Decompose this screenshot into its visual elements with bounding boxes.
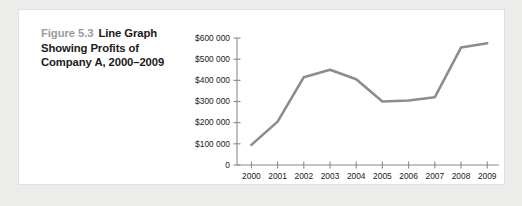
chart-svg: 0$100 000$200 000$300 000$400 000$500 00… [173,16,503,186]
figure-card: Figure 5.3Line Graph Showing Profits of … [18,9,505,185]
figure-number: Figure 5.3 [41,27,93,39]
y-tick-label: $500 000 [195,54,230,64]
x-tick-label: 2002 [294,171,313,181]
x-tick-label: 2001 [268,171,287,181]
x-tick-label: 2004 [347,171,366,181]
x-tick-label: 2000 [242,171,261,181]
y-tick-label: $200 000 [195,117,230,127]
y-tick-label: $300 000 [195,96,230,106]
x-tick-label: 2007 [425,171,444,181]
x-tick-label: 2003 [321,171,340,181]
y-tick-label: $100 000 [195,139,230,149]
x-tick-group: 2000200120022003200420052006200720082009 [242,162,497,182]
x-tick-label: 2005 [373,171,392,181]
x-tick-label: 2006 [399,171,418,181]
y-tick-label: 0 [225,160,230,170]
y-tick-group: 0$100 000$200 000$300 000$400 000$500 00… [195,33,240,170]
x-tick-label: 2009 [478,171,497,181]
y-tick-label: $600 000 [195,33,230,43]
figure-caption: Figure 5.3Line Graph Showing Profits of … [41,26,173,70]
y-tick-label: $400 000 [195,75,230,85]
line-chart: 0$100 000$200 000$300 000$400 000$500 00… [173,16,503,186]
data-line-profits [251,43,487,145]
x-tick-label: 2008 [452,171,471,181]
series-group [251,43,487,145]
